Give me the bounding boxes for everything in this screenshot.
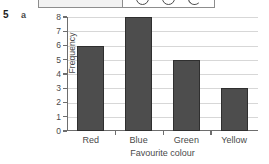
x-tick-label: Green bbox=[174, 135, 199, 145]
y-tick: 2 bbox=[44, 102, 67, 103]
y-tick-label: 0 bbox=[56, 127, 61, 136]
y-tick: 3 bbox=[44, 88, 67, 89]
x-tick-label: Yellow bbox=[221, 135, 247, 145]
cut-off-panel-above bbox=[38, 0, 215, 8]
y-tick-label: 3 bbox=[56, 84, 61, 93]
y-tick-label: 4 bbox=[56, 70, 61, 79]
y-tick-label: 8 bbox=[56, 13, 61, 22]
panel-left-cell bbox=[39, 0, 123, 7]
x-axis-labels: RedBlueGreenYellow bbox=[67, 135, 258, 149]
question-number: 5 bbox=[3, 9, 9, 20]
bar-red bbox=[77, 46, 104, 132]
y-tick-label: 6 bbox=[56, 41, 61, 50]
x-axis-label: Favourite colour bbox=[67, 148, 258, 158]
y-tick: 7 bbox=[44, 31, 67, 32]
bar-chart: Frequency 012345678 RedBlueGreenYellow F… bbox=[44, 12, 266, 162]
circle-glyph-icon bbox=[136, 0, 149, 5]
panel-right-cell bbox=[123, 0, 214, 7]
y-tick-label: 7 bbox=[56, 27, 61, 36]
bar-green bbox=[173, 60, 200, 131]
question-part-label: a bbox=[21, 10, 26, 20]
y-tick: 8 bbox=[44, 17, 67, 18]
y-tick: 4 bbox=[44, 74, 67, 75]
y-tick: 1 bbox=[44, 116, 67, 117]
x-tick-label: Blue bbox=[130, 135, 148, 145]
x-tick-label: Red bbox=[83, 135, 100, 145]
bar-blue bbox=[125, 17, 152, 131]
bar-yellow bbox=[221, 88, 248, 131]
y-tick-label: 2 bbox=[56, 98, 61, 107]
y-tick-label: 5 bbox=[56, 56, 61, 65]
partial-circle-glyph-icon bbox=[188, 0, 201, 5]
y-tick: 6 bbox=[44, 45, 67, 46]
y-tick-label: 1 bbox=[56, 113, 61, 122]
circle-glyph-icon bbox=[162, 0, 175, 5]
y-tick: 5 bbox=[44, 59, 67, 60]
y-axis-ticks: 012345678 bbox=[44, 17, 67, 131]
bars-layer bbox=[67, 17, 258, 131]
y-tick: 0 bbox=[44, 131, 67, 132]
